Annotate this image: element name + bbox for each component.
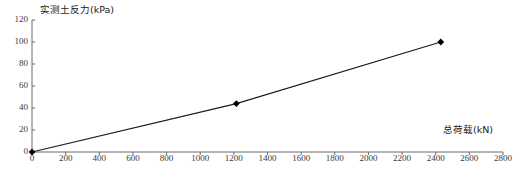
axes (32, 20, 503, 152)
data-point-marker (437, 39, 444, 46)
y-tick-label: 40 (2, 102, 28, 112)
data-point-marker (233, 100, 240, 107)
y-tick-label: 20 (2, 124, 28, 134)
x-tick-label: 2800 (483, 153, 519, 163)
y-tick-label: 80 (2, 58, 28, 68)
y-tick-label: 60 (2, 80, 28, 90)
data-series-line (32, 42, 441, 152)
y-tick-label: 120 (2, 14, 28, 24)
chart-container: 实测土反力(kPa) 总荷载(kN) 020040060080010001200… (0, 0, 519, 182)
y-tick-label: 0 (2, 146, 28, 156)
y-tick-label: 100 (2, 36, 28, 46)
